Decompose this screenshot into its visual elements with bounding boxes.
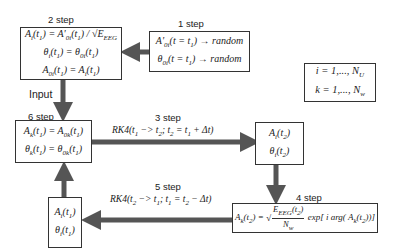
step6-eq-1: Ak(t1) = A0k(t1) xyxy=(24,124,83,142)
step2-label: 2 step xyxy=(48,14,74,25)
t2-amplitude: Ai(t2) xyxy=(269,126,290,144)
indices-box: i = 1,..., NU k = 1,..., Nw xyxy=(304,63,376,102)
step6-eq-2: θk(t1) = θ0k(t1) xyxy=(25,142,82,160)
index-i-range: i = 1,..., NU xyxy=(316,64,364,82)
algorithm-flow-diagram: 2 step Ai(t1) = A'0i(t1) / √EEEG θi(t1) … xyxy=(0,0,395,251)
t2-phase: θi(t2) xyxy=(270,144,290,162)
step1-label: 1 step xyxy=(178,18,204,29)
step4-equation: Ak(t2) = √EEEG(t2)Nw exp[ i arg( Ak(t2))… xyxy=(235,203,375,232)
t2-state-box: Ai(t2) θi(t2) xyxy=(255,122,304,165)
step2-eq-1: Ai(t1) = A'0i(t1) / √EEEG xyxy=(25,27,117,45)
t1-phase: θi(t1) xyxy=(55,223,75,241)
step3-rk4-equation: RK4(t1 −> t2; t2 = t1 + Δt) xyxy=(112,125,213,138)
step3-label: 3 step xyxy=(155,112,181,123)
index-k-range: k = 1,..., Nw xyxy=(315,83,365,101)
step5-label: 5 step xyxy=(155,181,181,192)
step6-box: Ak(t1) = A0k(t1) θk(t1) = θ0k(t1) xyxy=(15,120,92,163)
t1-amplitude: Ai(t1) xyxy=(54,205,75,223)
step2-box: Ai(t1) = A'0i(t1) / √EEEG θi(t1) = θ0i(t… xyxy=(20,27,122,80)
step1-eq-2: θ0i(t = t1) → random xyxy=(158,52,242,70)
step4-label: 4 step xyxy=(296,192,322,203)
input-label: Input xyxy=(29,88,52,100)
step2-eq-3: A0i(t1) = Ai(t1) xyxy=(42,63,99,81)
step1-eq-1: A'0i(t = t1) → random xyxy=(156,34,243,52)
step2-eq-2: θi(t1) = θ0i(t1) xyxy=(44,45,99,63)
step1-box: A'0i(t = t1) → random θ0i(t = t1) → rand… xyxy=(149,31,250,72)
step5-rk4-equation: RK4(t2 −> t1; t1 = t2 − Δt) xyxy=(110,194,211,207)
step4-box: Ak(t2) = √EEEG(t2)Nw exp[ i arg( Ak(t2))… xyxy=(232,203,378,233)
t1-state-box: Ai(t1) θi(t1) xyxy=(48,197,82,248)
